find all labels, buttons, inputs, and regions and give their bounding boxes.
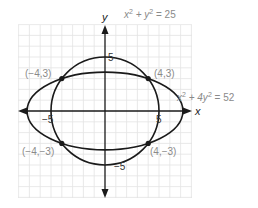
tick-y-pos5: 5 (108, 52, 114, 63)
x-axis-label: x (194, 105, 201, 117)
axes (18, 25, 192, 198)
tick-x-neg5: −5 (42, 114, 54, 125)
equation-circle: x2 + y2 = 25 (123, 8, 176, 20)
y-axis-arrow-up-icon (102, 25, 109, 34)
y-axis-label: y (101, 11, 109, 23)
point-4-3 (146, 76, 151, 81)
equation-ellipse: x2 + 4y2 = 52 (176, 91, 235, 103)
label-point-neg4-3: (−4,3) (25, 68, 51, 79)
y-axis-arrow-down-icon (102, 189, 109, 198)
x-axis-arrow-right-icon (183, 108, 192, 115)
graph: (−4,3) (4,3) (−4,−3) (4,−3) 5 −5 −5 5 y … (0, 0, 258, 208)
tick-x-pos5: 5 (156, 114, 162, 125)
x-axis-arrow-left-icon (18, 108, 27, 115)
tick-y-neg5: −5 (114, 161, 126, 172)
label-point-4-3: (4,3) (154, 68, 175, 79)
label-point-4-neg3: (4,−3) (150, 146, 176, 157)
point-neg4-3 (59, 76, 64, 81)
label-point-neg4-neg3: (−4,−3) (22, 146, 54, 157)
point-neg4-neg3 (59, 141, 64, 146)
